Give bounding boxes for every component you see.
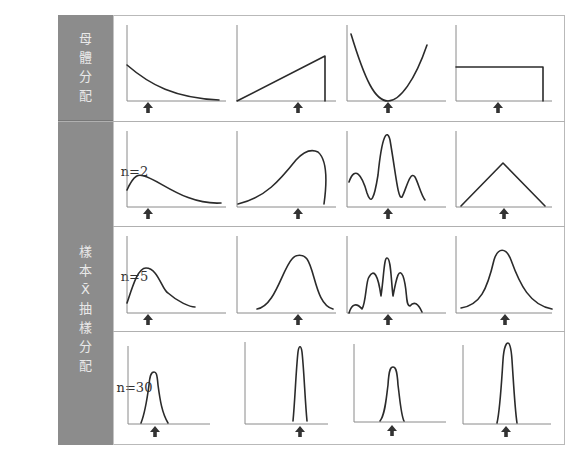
- distribution-plots: [0, 0, 579, 463]
- mean-arrow-icon: [293, 208, 303, 219]
- plot-n30-col3: [354, 344, 446, 436]
- plot-n5-col2: [237, 236, 336, 325]
- mean-arrow-icon: [143, 208, 153, 219]
- plot-n2-col2: [237, 131, 336, 219]
- mean-arrow-icon: [293, 102, 303, 113]
- plot-population-u-shaped: [347, 25, 446, 113]
- mean-arrow-icon: [383, 102, 393, 113]
- mean-arrow-icon: [500, 314, 510, 325]
- mean-arrow-icon: [383, 208, 393, 219]
- plot-n2-col1: [127, 131, 226, 219]
- plot-n5-col4: [456, 236, 552, 325]
- plot-n5-col1: [127, 236, 226, 325]
- mean-arrow-icon: [293, 314, 303, 325]
- mean-arrow-icon: [383, 314, 393, 325]
- mean-arrow-icon: [501, 426, 511, 437]
- plot-n2-col4: [456, 131, 552, 219]
- mean-arrow-icon: [143, 102, 153, 113]
- plot-population-linear: [237, 25, 336, 113]
- plot-population-exponential: [127, 25, 226, 113]
- mean-arrow-icon: [150, 426, 160, 437]
- mean-arrow-icon: [493, 102, 503, 113]
- mean-arrow-icon: [143, 314, 153, 325]
- mean-arrow-icon: [387, 425, 397, 436]
- plot-n30-col2: [245, 342, 328, 437]
- plot-n30-col4: [463, 343, 551, 437]
- plot-n30-col1: [128, 346, 210, 437]
- plot-n5-col3: [347, 236, 446, 325]
- plot-n2-col3: [347, 131, 446, 219]
- plot-population-uniform: [456, 25, 552, 113]
- mean-arrow-icon: [295, 426, 305, 437]
- mean-arrow-icon: [499, 208, 509, 219]
